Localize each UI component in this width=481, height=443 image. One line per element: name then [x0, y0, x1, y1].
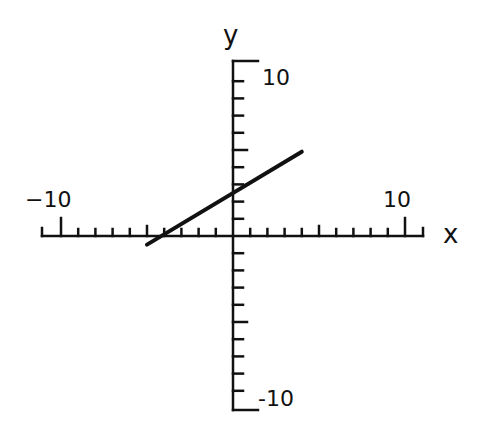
line-series — [147, 152, 302, 245]
x-axis-label: x — [443, 219, 458, 249]
plot-area: −10 10 10 -10 x y — [0, 0, 481, 443]
y-max-tick-label: 10 — [262, 65, 290, 90]
y-min-tick-label: -10 — [258, 386, 294, 411]
y-axis-label: y — [223, 20, 238, 50]
x-max-tick-label: 10 — [383, 187, 411, 212]
data-series — [147, 152, 302, 245]
x-min-tick-label: −10 — [25, 187, 71, 212]
coordinate-plane-chart: −10 10 10 -10 x y — [0, 0, 481, 443]
